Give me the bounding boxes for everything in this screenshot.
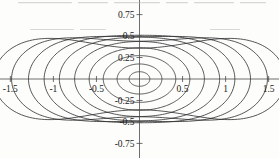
x-tick-label-1: 1 (223, 84, 228, 94)
y-tick-label--0.75: -0.75 (115, 139, 135, 149)
contour-plot-figure: -1.5-1-0.50.511.50.750.50.25-0.25-0.5-0.… (0, 0, 279, 158)
y-tick-label--0.5: -0.5 (119, 117, 134, 127)
x-tick-label-0.5: 0.5 (177, 84, 189, 94)
y-tick-label-0.25: 0.25 (118, 53, 135, 63)
y-tick-label--0.25: -0.25 (115, 96, 135, 106)
axis-lines (0, 0, 279, 158)
x-tick-label-1.5: 1.5 (263, 84, 275, 94)
y-tick-label-0.5: 0.5 (123, 31, 135, 41)
x-tick-label--1: -1 (49, 84, 57, 94)
x-tick-label--1.5: -1.5 (3, 84, 18, 94)
x-tick-label--0.5: -0.5 (89, 84, 104, 94)
y-tick-label-0.75: 0.75 (118, 10, 135, 20)
contour-plot-canvas: -1.5-1-0.50.511.50.750.50.25-0.25-0.5-0.… (0, 0, 279, 158)
